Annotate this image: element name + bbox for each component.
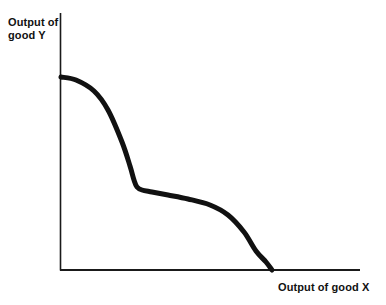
y-axis-label: Output ofgood Y [8, 16, 58, 42]
y-axis-label-line2: good Y [8, 29, 46, 41]
ppf-chart-svg [0, 0, 386, 305]
x-axis-label: Output of good X [278, 281, 369, 294]
frontier-curve [61, 77, 272, 270]
y-axis-label-line1: Output of [8, 16, 58, 28]
ppf-chart-figure: Output ofgood Y Output of good X [0, 0, 386, 305]
